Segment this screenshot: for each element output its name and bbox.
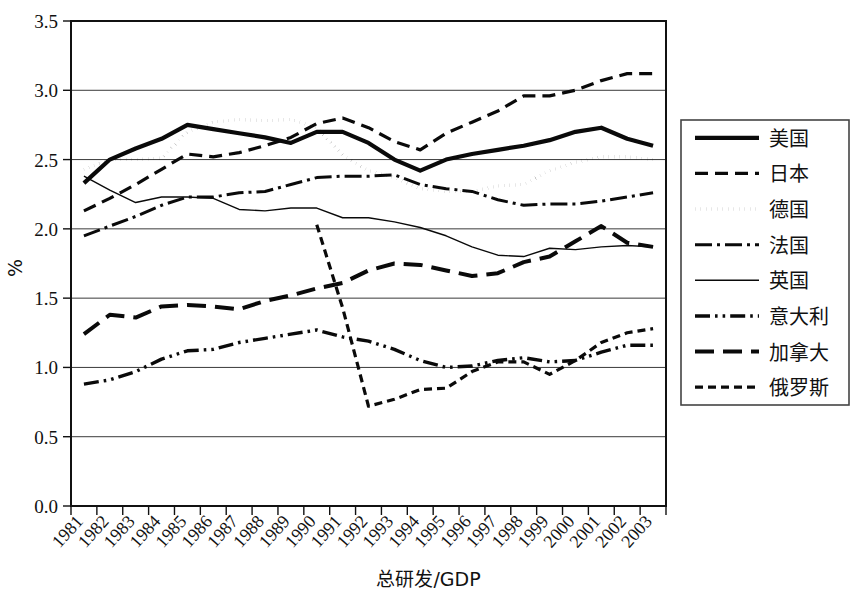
y-tick-label: 0.5 bbox=[34, 427, 58, 448]
y-tick-label: 3.0 bbox=[34, 80, 58, 101]
y-tick-label: 0.0 bbox=[34, 496, 58, 517]
rd-gdp-line-chart: 0.00.51.01.52.02.53.03.5 198119821983198… bbox=[0, 0, 855, 591]
y-tick-label: 2.0 bbox=[34, 219, 58, 240]
y-tick-label: 1.5 bbox=[34, 288, 58, 309]
y-tick-label: 2.5 bbox=[34, 150, 58, 171]
legend-label-7: 俄罗斯 bbox=[769, 376, 829, 400]
x-axis-title: 总研发/GDP bbox=[376, 568, 480, 590]
legend-label-0: 美国 bbox=[769, 127, 809, 151]
legend-label-4: 英国 bbox=[769, 269, 809, 293]
y-axis-title: % bbox=[4, 259, 26, 277]
chart-legend: 美国日本德国法国英国意大利加拿大俄罗斯 bbox=[681, 120, 849, 405]
legend-label-1: 日本 bbox=[769, 162, 809, 186]
legend-label-5: 意大利 bbox=[769, 305, 829, 329]
y-tick-label: 3.5 bbox=[34, 11, 58, 32]
y-tick-label: 1.0 bbox=[34, 357, 58, 378]
chart-figure: 0.00.51.01.52.02.53.03.5 198119821983198… bbox=[0, 0, 855, 591]
legend-label-2: 德国 bbox=[769, 198, 809, 222]
legend-label-6: 加拿大 bbox=[769, 341, 829, 365]
legend-label-3: 法国 bbox=[769, 234, 809, 258]
